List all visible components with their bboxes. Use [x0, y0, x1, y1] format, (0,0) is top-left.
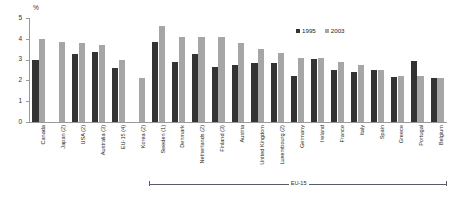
bar-group [407, 18, 427, 122]
x-tick-label: Korea (2) [141, 125, 147, 148]
bar-2003 [79, 43, 85, 122]
bar-group [208, 18, 228, 122]
bar-group [228, 18, 248, 122]
legend-label-1995: 1995 [302, 27, 316, 34]
x-tick-label: Canada [41, 125, 47, 145]
bar-group [49, 18, 69, 122]
y-tick-label: 2 [4, 77, 22, 84]
x-tick-label: Denmark [180, 125, 186, 148]
x-tick-label: Italy [360, 125, 366, 135]
x-tick-label: Finland (3) [220, 125, 226, 152]
bar-2003 [238, 43, 244, 122]
bar-2003 [39, 39, 45, 122]
bar-1995 [351, 72, 357, 122]
bar-2003 [398, 76, 404, 122]
bar-1995 [192, 54, 198, 122]
bar-1995 [371, 70, 377, 122]
bar-1995 [411, 61, 417, 122]
x-tick-label: Spain [380, 125, 386, 139]
legend-item-2003: 2003 [325, 27, 345, 34]
bar-chart: % 012345 CanadaJapan (2)USA (2)Australia… [0, 0, 452, 202]
bar-1995 [391, 77, 397, 122]
bar-1995 [72, 54, 78, 122]
legend-label-2003: 2003 [331, 27, 345, 34]
x-tick-label: Sweden (1) [161, 125, 167, 154]
bar-1995 [92, 52, 98, 122]
bar-1995 [431, 78, 437, 122]
x-tick-label: Japan (2) [61, 125, 67, 149]
x-tick-label: Greece [399, 125, 405, 143]
bar-1995 [251, 63, 257, 122]
bar-2003 [318, 58, 324, 122]
bar-2003 [338, 62, 344, 122]
bar-1995 [291, 76, 297, 122]
bar-1995 [152, 42, 158, 122]
bar-group [387, 18, 407, 122]
bar-group [248, 18, 268, 122]
bar-1995 [271, 63, 277, 122]
y-axis-unit-label: % [33, 4, 39, 11]
chart-legend: 1995 2003 [296, 27, 345, 34]
plot-area [29, 18, 447, 122]
y-tick-label: 1 [4, 98, 22, 105]
bar-2003 [179, 37, 185, 122]
bracket-cap-right [446, 181, 447, 186]
x-tick-label: Portugal [419, 125, 425, 146]
bar-2003 [258, 49, 264, 122]
x-tick-label: Germany [300, 125, 306, 148]
bar-group [188, 18, 208, 122]
x-tick-label: Australia (3) [101, 125, 107, 155]
bar-1995 [331, 70, 337, 122]
bar-2003 [59, 42, 65, 122]
bar-2003 [417, 76, 423, 122]
bar-2003 [298, 58, 304, 122]
x-tick-label: EU-15 (4) [121, 125, 127, 149]
bar-1995 [32, 60, 38, 122]
x-tick-label: France [340, 125, 346, 142]
bar-group [367, 18, 387, 122]
y-tick-label: 5 [4, 15, 22, 22]
bar-group [148, 18, 168, 122]
bar-2003 [198, 37, 204, 122]
bar-2003 [159, 26, 165, 122]
bar-2003 [278, 53, 284, 122]
bar-2003 [139, 78, 145, 122]
bar-1995 [172, 62, 178, 122]
bar-2003 [437, 78, 443, 122]
x-tick-label: Belgium [439, 125, 445, 145]
y-tick-label: 4 [4, 36, 22, 43]
x-tick-label: Austria [240, 125, 246, 142]
bar-group [29, 18, 49, 122]
x-tick-label: USA (2) [81, 125, 87, 145]
bar-2003 [99, 45, 105, 122]
bar-group [268, 18, 288, 122]
bar-2003 [119, 60, 125, 122]
bar-group [347, 18, 367, 122]
bar-group [69, 18, 89, 122]
bar-group [109, 18, 129, 122]
bar-group [89, 18, 109, 122]
x-tick-label: Netherlands (2) [200, 125, 206, 164]
legend-swatch-icon-2003 [325, 29, 329, 33]
bar-1995 [311, 59, 317, 122]
bar-2003 [218, 37, 224, 122]
bar-group [129, 18, 149, 122]
x-tick-label: Ireland [320, 125, 326, 142]
x-tick-label: Luxembourg (2) [280, 125, 286, 165]
x-tick-label: United Kingdom [260, 125, 266, 165]
legend-item-1995: 1995 [296, 27, 316, 34]
bar-1995 [232, 65, 238, 122]
y-tick-label: 3 [4, 56, 22, 63]
bar-2003 [378, 70, 384, 122]
bracket-label: EU-15 [289, 180, 309, 187]
legend-swatch-icon-1995 [296, 29, 300, 33]
bar-1995 [112, 68, 118, 122]
bar-2003 [358, 65, 364, 122]
bracket-cap-left [149, 181, 150, 186]
bar-group [427, 18, 447, 122]
bar-group [168, 18, 188, 122]
bar-1995 [212, 67, 218, 122]
x-axis-labels: CanadaJapan (2)USA (2)Australia (3)EU-15… [29, 123, 447, 178]
y-tick-label: 0 [4, 119, 22, 126]
